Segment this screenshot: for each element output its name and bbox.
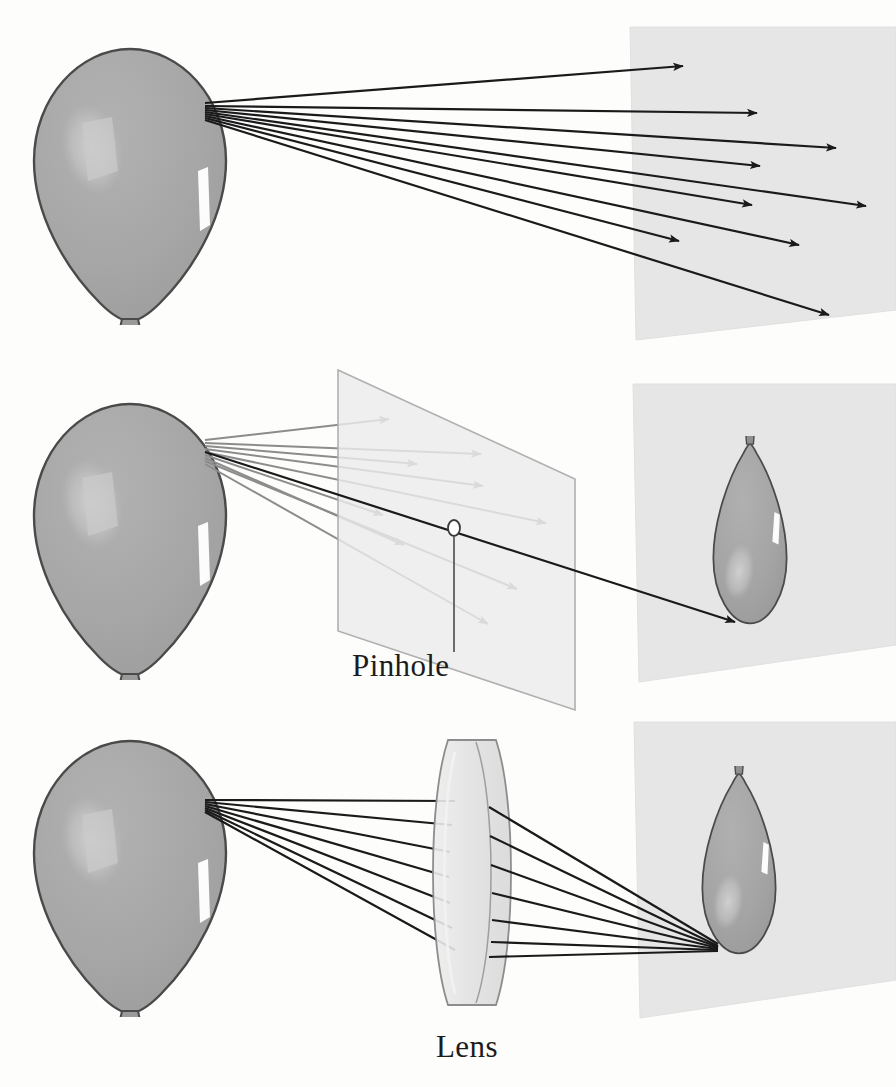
figure-canvas: Pinhole [0, 0, 896, 1087]
balloon-object [34, 741, 226, 1035]
balloon-object [34, 49, 226, 343]
projection-screen [630, 27, 896, 340]
balloon-object [34, 404, 226, 698]
panel-pinhole: Pinhole [34, 370, 896, 710]
optics-figure: Pinhole [0, 0, 896, 1087]
light-ray [205, 806, 449, 877]
panel-no-optics [34, 27, 896, 343]
light-ray [205, 66, 683, 103]
light-ray [205, 118, 679, 241]
light-ray [205, 812, 455, 950]
panel-lens: Lens [34, 722, 896, 1064]
incident-ray-bundle [205, 800, 455, 950]
converging-lens [433, 740, 511, 1005]
lens-label: Lens [436, 1029, 498, 1064]
pinhole-aperture [448, 520, 460, 536]
light-ray [205, 800, 455, 801]
pinhole-label: Pinhole [352, 648, 450, 683]
